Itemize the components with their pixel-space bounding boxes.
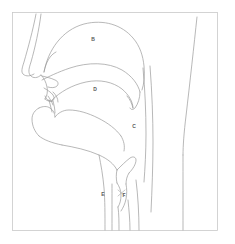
vocal-tract-diagram [0,0,235,244]
region-label-e: E [101,192,104,197]
region-label-b: B [91,37,95,42]
region-label-d: D [93,87,97,92]
vocal-tract-figure: B D C E F [0,0,235,244]
region-label-c: C [132,124,136,129]
figure-frame [13,13,218,231]
region-label-f: F [122,193,125,198]
